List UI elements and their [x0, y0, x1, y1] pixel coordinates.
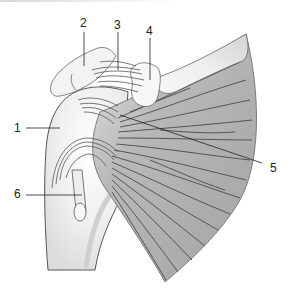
shoulder-diagram: [0, 0, 294, 294]
label-6: 6: [14, 188, 21, 200]
label-4: 4: [146, 25, 153, 37]
label-2: 2: [80, 17, 87, 29]
label-3: 3: [114, 19, 121, 31]
label-5: 5: [270, 162, 277, 174]
label-1: 1: [14, 122, 21, 134]
